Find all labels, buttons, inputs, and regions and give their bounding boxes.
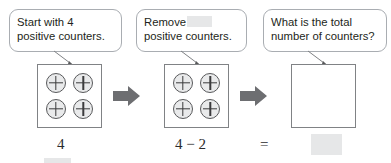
equals-sign: =: [260, 136, 268, 153]
figure-canvas: Start with 4 positive counters. Remove p…: [0, 0, 391, 163]
callout-2-line-1: Remove: [144, 15, 240, 29]
callout-3-line-1: What is the total: [271, 15, 380, 29]
callout-1-line-1: Start with 4: [17, 15, 115, 29]
counter-grid-1: [38, 65, 101, 127]
positive-counter-icon: [173, 73, 193, 93]
callout-2-line-2: positive counters.: [144, 29, 240, 43]
positive-counter-icon: [73, 99, 93, 119]
counter-box-3-empty[interactable]: [291, 64, 356, 128]
callout-bubble-1: Start with 4 positive counters.: [9, 9, 122, 52]
counter-box-1: [37, 64, 102, 128]
callout-bubble-3: What is the total number of counters?: [263, 9, 387, 52]
counter-grid-2: [165, 65, 228, 127]
positive-counter-icon: [46, 73, 66, 93]
block-arrow-right-icon: [113, 85, 141, 107]
callout-1-line-2: positive counters.: [17, 29, 115, 43]
callout-3-line-2: number of counters?: [271, 29, 380, 43]
inline-fill-in-blank[interactable]: [187, 16, 212, 27]
panel-1-label: 4: [57, 136, 65, 153]
positive-counter-icon: [200, 99, 220, 119]
panel-2-label: 4 − 2: [175, 136, 206, 153]
callout-2-line-1-text: Remove: [144, 16, 186, 28]
answer-fill-in-blank[interactable]: [311, 134, 342, 155]
positive-counter-icon: [173, 99, 193, 119]
positive-counter-icon: [46, 99, 66, 119]
callout-bubble-2: Remove positive counters.: [136, 9, 247, 52]
positive-counter-icon: [73, 73, 93, 93]
counter-box-2: [164, 64, 229, 128]
block-arrow-right-icon: [240, 85, 268, 107]
secondary-fill-in-blank[interactable]: [44, 158, 71, 163]
positive-counter-icon: [200, 73, 220, 93]
